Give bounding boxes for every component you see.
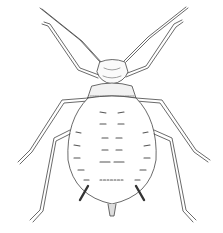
abdomen	[68, 96, 156, 204]
aphid-illustration	[0, 0, 223, 233]
right-hind-leg	[154, 130, 196, 222]
left-hind-leg	[30, 130, 70, 222]
cauda	[108, 204, 116, 216]
right-antenna	[124, 7, 188, 62]
right-front-leg	[125, 20, 183, 77]
head	[97, 60, 128, 85]
illustration-canvas	[0, 0, 223, 233]
